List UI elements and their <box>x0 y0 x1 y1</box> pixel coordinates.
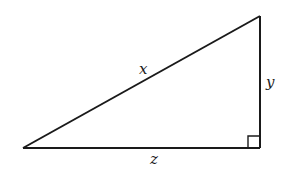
horizontal-leg-label: z <box>150 152 158 167</box>
vertical-leg-label: y <box>266 75 274 90</box>
right-angle-marker <box>248 136 260 148</box>
right-triangle-diagram <box>0 0 285 182</box>
hypotenuse-line <box>23 16 260 148</box>
hypotenuse-label: x <box>139 62 147 77</box>
